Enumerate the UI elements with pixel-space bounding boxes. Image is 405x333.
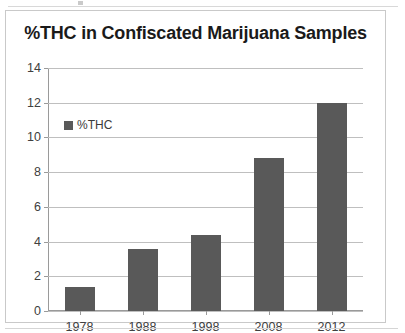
y-axis-tick-mark (44, 311, 48, 312)
page-top-rule (8, 6, 398, 7)
x-axis-tick-mark (80, 311, 81, 315)
y-axis-tick-label: 12 (27, 96, 41, 110)
bar-group: 1978 (48, 68, 111, 311)
bar-group: 2012 (300, 68, 363, 311)
legend-swatch-thc (64, 121, 73, 130)
bar (317, 103, 347, 311)
chart-container: %THC in Confiscated Marijuana Samples 02… (5, 10, 386, 323)
y-axis-tick-label: 14 (27, 61, 41, 75)
bar-series: 19781988199820082012 (48, 68, 363, 311)
x-axis-tick-label: 1978 (66, 320, 94, 333)
plot-area: 02468101214 19781988199820082012 (48, 68, 363, 311)
x-axis-tick-mark (269, 311, 270, 315)
bar (191, 235, 221, 311)
y-axis-tick-label: 8 (34, 165, 41, 179)
y-axis-tick-label: 0 (34, 304, 41, 318)
y-axis-tick-label: 2 (34, 269, 41, 283)
scan-artifact (78, 1, 83, 5)
bar (128, 249, 158, 311)
y-axis-tick-label: 10 (27, 130, 41, 144)
bar-group: 1988 (111, 68, 174, 311)
x-axis-tick-label: 2008 (255, 320, 283, 333)
x-axis-tick-mark (332, 311, 333, 315)
x-axis-tick-label: 1988 (129, 320, 157, 333)
y-axis-tick-label: 6 (34, 200, 41, 214)
x-axis-tick-mark (206, 311, 207, 315)
bar (254, 158, 284, 311)
legend-label-thc: %THC (77, 118, 112, 132)
bar (65, 287, 95, 311)
page-bottom-rule (5, 328, 398, 329)
chart-legend: %THC (64, 118, 112, 132)
x-axis-tick-label: 2012 (318, 320, 346, 333)
chart-title: %THC in Confiscated Marijuana Samples (6, 23, 385, 44)
bar-group: 2008 (237, 68, 300, 311)
x-axis-tick-label: 1998 (192, 320, 220, 333)
bar-group: 1998 (174, 68, 237, 311)
y-axis-tick-label: 4 (34, 235, 41, 249)
x-axis-tick-mark (143, 311, 144, 315)
